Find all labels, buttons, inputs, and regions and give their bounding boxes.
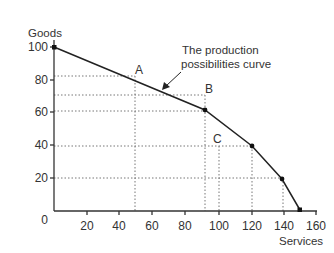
marker-92-60 <box>203 108 208 113</box>
marker-150-0 <box>298 208 303 213</box>
y-label-60: 60 <box>35 105 49 119</box>
marker-120-40 <box>250 144 255 149</box>
curve-markers <box>52 45 302 212</box>
annotation-line-1: The production <box>182 44 259 56</box>
y-label-40: 40 <box>35 138 49 152</box>
point-label-c: C <box>213 132 222 146</box>
y-label-80: 80 <box>35 73 49 87</box>
annotation-line-2: possibilities curve <box>181 58 271 70</box>
ppc-chart: Goods Services 100 80 60 40 20 0 20 40 6… <box>0 0 334 253</box>
x-label-140: 140 <box>274 219 294 233</box>
ppc-curve <box>54 47 300 210</box>
y-axis-title: Goods <box>28 27 62 39</box>
x-label-160: 160 <box>306 219 326 233</box>
marker-138-20 <box>280 177 285 182</box>
x-label-40: 40 <box>112 219 126 233</box>
x-axis-title: Services <box>279 235 323 247</box>
annotation-arrow <box>162 72 181 90</box>
point-label-b: B <box>205 82 213 96</box>
point-label-a: A <box>135 63 143 77</box>
y-label-20: 20 <box>35 171 49 185</box>
x-label-120: 120 <box>242 219 262 233</box>
x-label-100: 100 <box>209 219 229 233</box>
marker-0-100 <box>52 45 57 50</box>
x-label-20: 20 <box>80 219 94 233</box>
y-label-100: 100 <box>28 40 48 54</box>
x-label-80: 80 <box>178 219 192 233</box>
origin-label: 0 <box>41 213 48 227</box>
x-label-60: 60 <box>145 219 159 233</box>
